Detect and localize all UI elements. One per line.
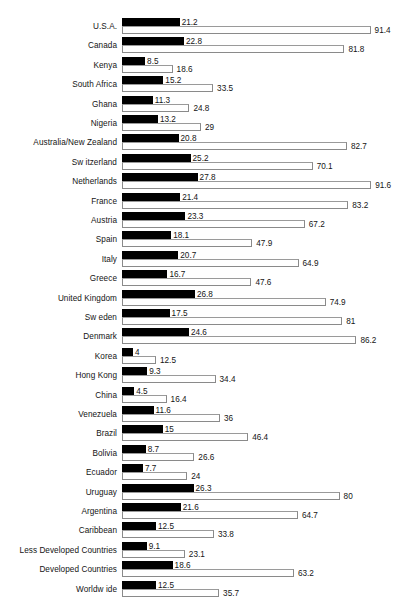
- primary-bar-track: 27.8: [122, 173, 411, 181]
- category-label: Worldw ide: [0, 581, 117, 598]
- secondary-bar: [122, 511, 298, 519]
- primary-bar-track: 26.8: [122, 290, 411, 298]
- primary-bar: [122, 387, 134, 395]
- primary-bar-track: 9.1: [122, 542, 411, 550]
- secondary-bar-track: 47.6: [122, 278, 411, 286]
- primary-bar-track: 8.5: [122, 57, 411, 65]
- secondary-bar-value: 63.2: [294, 569, 314, 578]
- secondary-bar-value: 24.8: [189, 103, 209, 112]
- bar-pair: 16.747.6: [122, 270, 411, 290]
- primary-bar: [122, 328, 189, 336]
- bar-pair: 8.726.6: [122, 445, 411, 465]
- secondary-bar-track: 34.4: [122, 375, 411, 383]
- bar-row: Worldw ide12.535.7: [0, 581, 411, 601]
- primary-bar-track: 26.3: [122, 484, 411, 492]
- primary-bar: [122, 115, 158, 123]
- secondary-bar: [122, 104, 189, 112]
- primary-bar-track: 12.5: [122, 581, 411, 589]
- category-label: China: [0, 387, 117, 404]
- secondary-bar: [122, 142, 347, 150]
- category-label: Uruguay: [0, 484, 117, 501]
- secondary-bar-value: 74.9: [326, 297, 346, 306]
- primary-bar-track: 21.2: [122, 18, 411, 26]
- secondary-bar-value: 16.4: [167, 394, 187, 403]
- bar-pair: 9.334.4: [122, 367, 411, 387]
- secondary-bar: [122, 336, 356, 344]
- secondary-bar-value: 24: [187, 472, 200, 481]
- bar-pair: 23.367.2: [122, 212, 411, 232]
- secondary-bar: [122, 530, 214, 538]
- secondary-bar-track: 46.4: [122, 433, 411, 441]
- secondary-bar-track: 74.9: [122, 298, 411, 306]
- secondary-bar-track: 35.7: [122, 589, 411, 597]
- category-label: Spain: [0, 231, 117, 248]
- bar-pair: 8.518.6: [122, 57, 411, 77]
- secondary-bar-track: 83.2: [122, 201, 411, 209]
- category-label: Korea: [0, 348, 117, 365]
- primary-bar: [122, 406, 154, 414]
- bar-row: Ghana11.324.8: [0, 96, 411, 116]
- primary-bar: [122, 76, 163, 84]
- secondary-bar-value: 64.9: [299, 258, 319, 267]
- bar-pair: 26.874.9: [122, 290, 411, 310]
- secondary-bar: [122, 278, 251, 286]
- secondary-bar-track: 16.4: [122, 395, 411, 403]
- primary-bar: [122, 18, 180, 26]
- secondary-bar-value: 81: [342, 317, 355, 326]
- category-label: Greece: [0, 270, 117, 287]
- primary-bar-track: 20.8: [122, 134, 411, 142]
- secondary-bar-track: 70.1: [122, 162, 411, 170]
- bar-pair: 13.229: [122, 115, 411, 135]
- secondary-bar: [122, 45, 344, 53]
- bar-row: Greece16.747.6: [0, 270, 411, 290]
- category-label: Australia/New Zealand: [0, 134, 117, 151]
- primary-bar: [122, 484, 194, 492]
- bar-row: Korea412.5: [0, 348, 411, 368]
- primary-bar: [122, 464, 143, 472]
- secondary-bar-track: 91.4: [122, 26, 411, 34]
- primary-bar-track: 18.6: [122, 561, 411, 569]
- bar-pair: 4.516.4: [122, 387, 411, 407]
- secondary-bar: [122, 433, 248, 441]
- primary-bar-track: 11.3: [122, 96, 411, 104]
- primary-bar: [122, 193, 180, 201]
- secondary-bar-track: 82.7: [122, 142, 411, 150]
- bar-pair: 11.324.8: [122, 96, 411, 116]
- primary-bar-track: 20.7: [122, 251, 411, 259]
- primary-bar-track: 9.3: [122, 367, 411, 375]
- primary-bar: [122, 503, 181, 511]
- secondary-bar-track: 12.5: [122, 356, 411, 364]
- primary-bar: [122, 251, 178, 259]
- category-label: Brazil: [0, 425, 117, 442]
- category-label: Austria: [0, 212, 117, 229]
- secondary-bar-value: 29: [201, 123, 214, 132]
- secondary-bar-value: 82.7: [347, 142, 367, 151]
- primary-bar-track: 15.2: [122, 76, 411, 84]
- primary-bar: [122, 231, 171, 239]
- bar-row: Bolivia8.726.6: [0, 445, 411, 465]
- secondary-bar-track: 24.8: [122, 104, 411, 112]
- secondary-bar-track: 81: [122, 317, 411, 325]
- secondary-bar-value: 46.4: [248, 433, 268, 442]
- bar-pair: 1546.4: [122, 425, 411, 445]
- secondary-bar: [122, 239, 252, 247]
- secondary-bar: [122, 492, 340, 500]
- secondary-bar-track: 23.1: [122, 550, 411, 558]
- bar-row: U.S.A.21.291.4: [0, 18, 411, 38]
- secondary-bar-track: 33.8: [122, 530, 411, 538]
- secondary-bar: [122, 356, 156, 364]
- bar-row: Kenya8.518.6: [0, 57, 411, 77]
- category-label: Nigeria: [0, 115, 117, 132]
- bar-pair: 412.5: [122, 348, 411, 368]
- secondary-bar-value: 83.2: [348, 200, 368, 209]
- secondary-bar: [122, 569, 294, 577]
- bar-row: Italy20.764.9: [0, 251, 411, 271]
- secondary-bar-value: 70.1: [313, 161, 333, 170]
- secondary-bar-value: 81.8: [344, 45, 364, 54]
- bar-row: Sw eden17.581: [0, 309, 411, 329]
- secondary-bar-value: 67.2: [305, 220, 325, 229]
- category-label: Developed Countries: [0, 561, 117, 578]
- secondary-bar-value: 91.4: [371, 26, 391, 35]
- primary-bar: [122, 425, 163, 433]
- secondary-bar-value: 64.7: [298, 511, 318, 520]
